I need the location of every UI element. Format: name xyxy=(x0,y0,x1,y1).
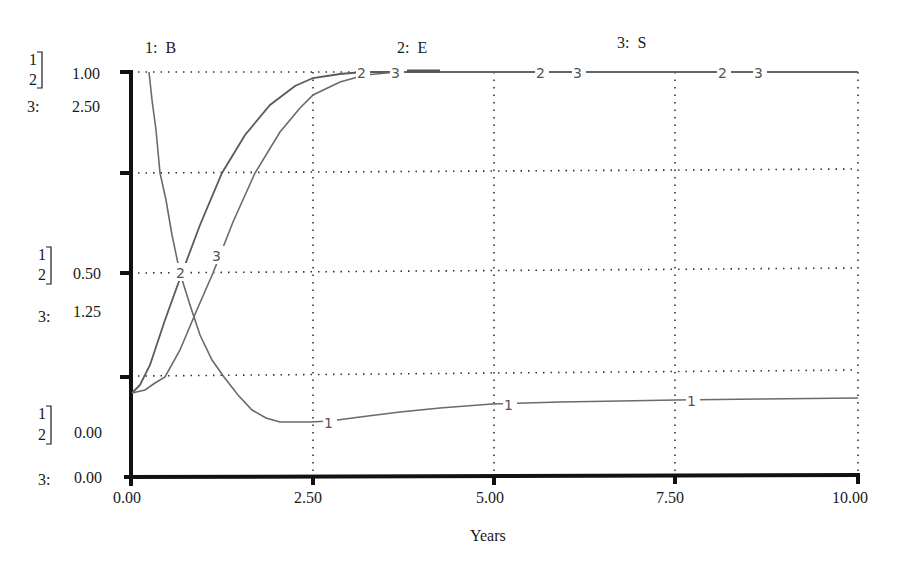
marker-1: 1 xyxy=(687,393,696,409)
marker-1: 1 xyxy=(324,415,333,431)
scale12-mid: 0.50 xyxy=(73,265,101,282)
marker-2: 2 xyxy=(357,65,366,81)
svg-text:2.50: 2.50 xyxy=(294,489,322,506)
marker-3: 3 xyxy=(391,65,400,81)
series-3-line xyxy=(132,72,858,393)
scale3-bottom: 0.00 xyxy=(74,469,102,486)
scale3-top: 2.50 xyxy=(72,98,100,115)
marker-3: 3 xyxy=(573,65,582,81)
x-axis xyxy=(124,475,860,477)
svg-text:3:: 3: xyxy=(38,471,50,488)
chart: 1 1 1 2 2 2 2 3 3 3 3 1: B 2: E 3: S 1 2… xyxy=(0,0,905,570)
axes xyxy=(120,70,860,486)
svg-text:3:: 3: xyxy=(38,308,50,325)
marker-1: 1 xyxy=(504,397,513,413)
marker-2: 2 xyxy=(536,65,545,81)
marker-2: 2 xyxy=(176,265,185,281)
svg-text:1: 1 xyxy=(38,405,46,422)
svg-text:2: 2 xyxy=(29,71,37,88)
svg-text:0.00: 0.00 xyxy=(113,489,141,506)
svg-text:1: 1 xyxy=(38,246,46,263)
svg-text:7.50: 7.50 xyxy=(656,489,684,506)
svg-text:1: 1 xyxy=(29,51,37,68)
x-axis-label: Years xyxy=(470,527,506,544)
marker-3: 3 xyxy=(212,248,221,264)
scale12-top: 1.00 xyxy=(72,65,100,82)
svg-text:2: 2 xyxy=(38,266,46,283)
x-tick-labels: 0.00 2.50 5.00 7.50 10.00 Years xyxy=(113,489,868,544)
scale12-bottom: 0.00 xyxy=(74,424,102,441)
y-scale-labels: 1 2 1.00 3: 2.50 1 2 0.50 3: 1.25 1 2 0.… xyxy=(27,51,102,488)
legend: 1: B 2: E 3: S xyxy=(145,34,646,56)
legend-item-1: 1: B xyxy=(145,39,176,56)
scale3-mid: 1.25 xyxy=(73,303,101,320)
legend-item-3: 3: S xyxy=(617,34,646,51)
legend-item-2: 2: E xyxy=(397,39,427,56)
marker-3: 3 xyxy=(754,65,763,81)
svg-text:3:: 3: xyxy=(27,98,39,115)
svg-text:2: 2 xyxy=(38,426,46,443)
marker-2: 2 xyxy=(718,65,727,81)
svg-text:5.00: 5.00 xyxy=(476,489,504,506)
series-2-line xyxy=(132,72,858,393)
series-1-line xyxy=(149,72,858,422)
svg-text:10.00: 10.00 xyxy=(832,489,868,506)
series-markers: 1 1 1 2 2 2 2 3 3 3 3 xyxy=(175,63,767,431)
